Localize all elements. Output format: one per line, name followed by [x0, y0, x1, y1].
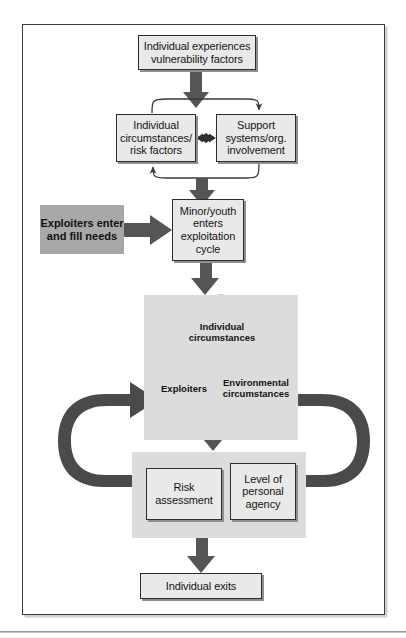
arrow-minor-youth-to-venn [191, 261, 219, 295]
node-minor-youth-exploitation-cycle: Minor/youth enters exploitation cycle [172, 199, 244, 261]
node-vulnerability-factors: Individual experiences vulnerability fac… [138, 35, 256, 70]
arrow-bidirectional-individual-support [196, 133, 216, 143]
arrow-vulnerability-to-pair [183, 70, 209, 108]
arrow-risk-panel-to-exits [187, 538, 215, 573]
curve-support-to-individual-bottom [153, 163, 259, 178]
node-individual-exits: Individual exits [140, 573, 262, 599]
node-support-systems: Support systems/org. involvement [216, 114, 296, 162]
curve-individual-to-support-top [152, 99, 259, 113]
arrow-exploiters-to-minor-youth [120, 215, 172, 245]
node-level-of-personal-agency: Level of personal agency [230, 463, 296, 520]
flow-diagram-figure: Individual experiences vulnerability fac… [0, 0, 406, 638]
node-exploiters-fill-needs: Exploiters enter and fill needs [40, 205, 124, 254]
node-individual-circumstances: Individual circumstances/ risk factors [116, 114, 196, 162]
venn-panel [144, 295, 298, 440]
node-risk-assessment: Risk assessment [146, 468, 222, 520]
